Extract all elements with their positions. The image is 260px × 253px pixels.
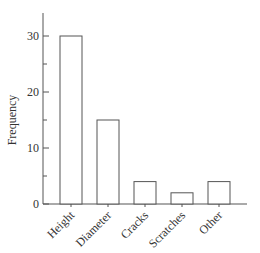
bar-cracks (134, 182, 156, 204)
x-tick-label: Cracks (118, 208, 152, 242)
y-axis-label: Frequency (5, 95, 19, 146)
x-tick-label: Scratches (146, 208, 189, 251)
bar-scratches (171, 193, 193, 204)
y-tick-label: 0 (33, 197, 39, 211)
bar-height (60, 36, 82, 204)
y-tick-label: 20 (27, 85, 39, 99)
x-tick-label: Height (44, 208, 77, 241)
x-tick-label: Other (196, 208, 225, 237)
x-axis: HeightDiameterCracksScratchesOther (43, 204, 247, 251)
y-axis: 0102030 (27, 13, 49, 211)
y-tick-label: 30 (27, 29, 39, 43)
bar-chart: 0102030 HeightDiameterCracksScratchesOth… (0, 0, 260, 253)
y-tick-label: 10 (27, 141, 39, 155)
bar-diameter (97, 120, 119, 204)
x-tick-label: Diameter (73, 208, 114, 249)
bars (60, 36, 230, 204)
bar-other (208, 182, 230, 204)
